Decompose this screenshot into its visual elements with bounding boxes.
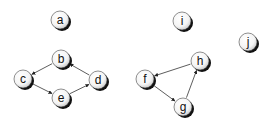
node-label: d bbox=[95, 73, 102, 87]
node-b: b bbox=[52, 50, 72, 70]
edge-g-h bbox=[186, 70, 196, 97]
node-label: a bbox=[57, 13, 64, 27]
edge-d-b bbox=[70, 64, 90, 75]
graph-svg: abcdefghij bbox=[0, 0, 274, 128]
graph-canvas: abcdefghij bbox=[0, 0, 274, 128]
node-g: g bbox=[174, 98, 194, 118]
node-label: g bbox=[180, 100, 187, 114]
edge-f-g bbox=[153, 85, 175, 101]
node-i: i bbox=[173, 12, 193, 32]
node-label: c bbox=[20, 72, 26, 86]
edge-c-e bbox=[32, 83, 52, 93]
node-h: h bbox=[191, 52, 211, 72]
node-a: a bbox=[51, 11, 71, 31]
node-label: i bbox=[181, 14, 184, 28]
node-d: d bbox=[89, 71, 109, 91]
node-label: h bbox=[197, 54, 204, 68]
edge-e-d bbox=[70, 84, 89, 93]
node-label: b bbox=[58, 52, 65, 66]
edge-h-f bbox=[155, 64, 191, 76]
node-label: j bbox=[246, 35, 250, 49]
node-label: e bbox=[58, 91, 65, 105]
node-e: e bbox=[52, 89, 72, 109]
node-j: j bbox=[239, 33, 259, 53]
edge-b-c bbox=[32, 64, 52, 75]
node-c: c bbox=[14, 70, 34, 90]
node-f: f bbox=[136, 70, 156, 90]
